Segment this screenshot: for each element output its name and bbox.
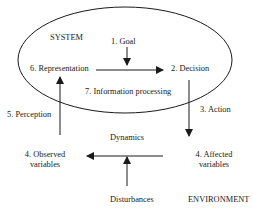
observed-variables-line2: variables	[20, 160, 70, 170]
observed-variables-line1: 4. Observed	[20, 150, 70, 160]
perception-label: 5. Perception	[7, 110, 51, 120]
system-label: SYSTEM	[50, 33, 83, 43]
affected-variables-label: 4. Affected variables	[190, 150, 238, 170]
goal-label: 1. Goal	[111, 37, 136, 47]
environment-label: ENVIRONMENT	[188, 195, 249, 205]
representation-label: 6. Representation	[30, 64, 89, 74]
observed-variables-label: 4. Observed variables	[20, 150, 70, 170]
system-boundary-ellipse	[18, 7, 232, 113]
affected-variables-line2: variables	[190, 160, 238, 170]
action-label: 3. Action	[200, 105, 231, 115]
disturbances-label: Disturbances	[110, 195, 154, 205]
dynamics-label: Dynamics	[110, 133, 144, 143]
decision-label: 2. Decision	[171, 64, 209, 74]
affected-variables-line1: 4. Affected	[190, 150, 238, 160]
information-processing-label: 7. Information processing	[85, 87, 171, 97]
